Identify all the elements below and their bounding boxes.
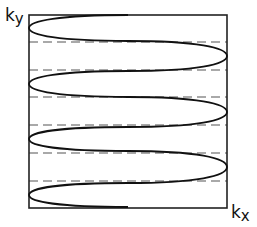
dashed-lines [29,42,227,181]
kx-axis-label: kx [231,202,250,225]
kspace-diagram: ky kx [0,0,257,227]
trajectory-curve [29,15,227,207]
ky-axis-label: ky [5,5,24,28]
